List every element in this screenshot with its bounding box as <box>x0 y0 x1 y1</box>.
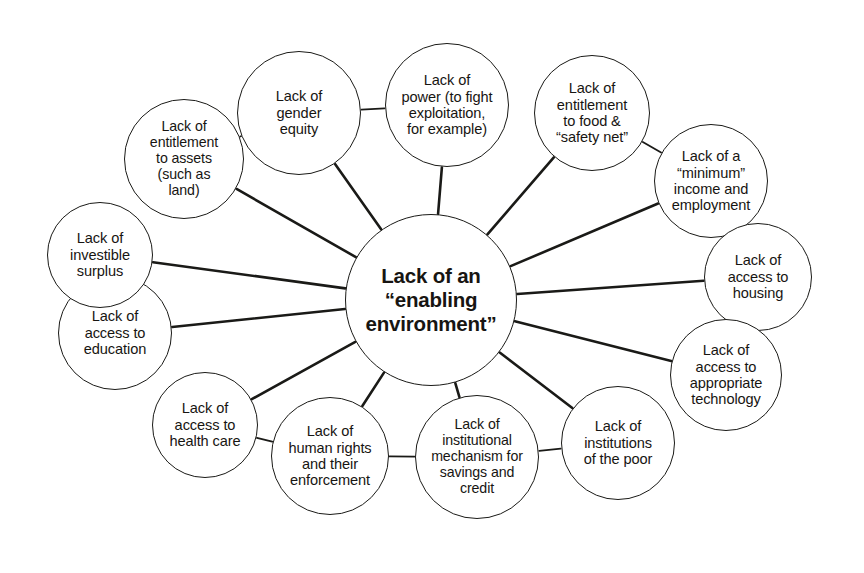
edge-enabling-environment-to-food-safety-net <box>487 157 553 234</box>
edge-health-care-to-human-rights <box>257 438 272 442</box>
edge-gender-equity-to-power <box>361 108 384 109</box>
node-label-minimum-income: Lack of a “minimum” income and employmen… <box>668 148 755 213</box>
node-housing[interactable]: Lack of access to housing <box>704 223 812 331</box>
node-label-food-safety-net: Lack of entitlement to food & “safety ne… <box>552 80 632 145</box>
node-appropriate-technology[interactable]: Lack of access to appropriate technology <box>670 319 782 431</box>
edge-enabling-environment-to-investible-surplus <box>153 262 345 288</box>
edge-enabling-environment-to-gender-equity <box>335 164 381 229</box>
node-label-institutions-of-the-poor: Lack of institutions of the poor <box>580 418 657 467</box>
node-label-power: Lack of power (to fight exploitation, fo… <box>398 72 497 137</box>
edge-enabling-environment-to-housing <box>517 281 703 294</box>
node-investible-surplus[interactable]: Lack of investible surplus <box>47 202 153 308</box>
edge-enabling-environment-to-health-care <box>252 342 355 399</box>
edge-enabling-environment-to-institutions-of-the-poor <box>500 353 573 409</box>
node-gender-equity[interactable]: Lack of gender equity <box>237 51 361 175</box>
node-label-health-care: Lack of access to health care <box>165 400 244 449</box>
node-label-enabling-environment: Lack of an “enabling environment” <box>362 264 501 337</box>
edge-food-safety-net-to-minimum-income <box>643 142 661 152</box>
node-savings-and-credit[interactable]: Lack of institutional mechanism for savi… <box>415 395 539 519</box>
center-node-enabling-environment[interactable]: Lack of an “enabling environment” <box>345 214 517 386</box>
edge-enabling-environment-to-minimum-income <box>511 203 658 266</box>
node-institutions-of-the-poor[interactable]: Lack of institutions of the poor <box>561 386 675 500</box>
node-label-education: Lack of access to education <box>80 308 150 357</box>
node-power[interactable]: Lack of power (to fight exploitation, fo… <box>385 43 509 167</box>
edge-enabling-environment-to-entitlement-to-assets <box>237 189 356 257</box>
edge-enabling-environment-to-education <box>172 309 345 327</box>
node-entitlement-to-assets[interactable]: Lack of entitlement to assets (such as l… <box>124 99 244 219</box>
node-food-safety-net[interactable]: Lack of entitlement to food & “safety ne… <box>534 55 650 171</box>
edge-enabling-environment-to-appropriate-technology <box>515 321 671 361</box>
edge-enabling-environment-to-power <box>438 167 442 213</box>
node-label-gender-equity: Lack of gender equity <box>272 88 326 137</box>
node-human-rights[interactable]: Lack of human rights and their enforceme… <box>271 397 389 515</box>
node-label-investible-surplus: Lack of investible surplus <box>66 230 134 279</box>
node-label-entitlement-to-assets: Lack of entitlement to assets (such as l… <box>146 119 222 199</box>
node-minimum-income[interactable]: Lack of a “minimum” income and employmen… <box>654 124 768 238</box>
node-health-care[interactable]: Lack of access to health care <box>152 372 258 478</box>
edge-savings-and-credit-to-institutions-of-the-poor <box>539 449 561 451</box>
node-label-housing: Lack of access to housing <box>724 252 793 301</box>
edge-enabling-environment-to-savings-and-credit <box>455 383 459 397</box>
edge-enabling-environment-to-human-rights <box>362 373 384 406</box>
node-label-appropriate-technology: Lack of access to appropriate technology <box>686 342 767 407</box>
node-label-savings-and-credit: Lack of institutional mechanism for savi… <box>427 417 527 497</box>
node-label-human-rights: Lack of human rights and their enforceme… <box>284 423 375 488</box>
diagram-canvas: Lack of gender equityLack of power (to f… <box>0 0 864 573</box>
